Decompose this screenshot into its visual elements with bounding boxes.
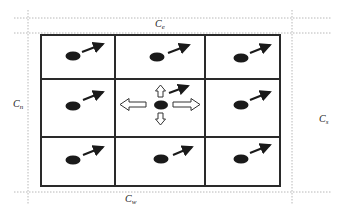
particle-dot: [154, 155, 169, 164]
cell-1-0: [66, 92, 104, 111]
cell-2-2: [234, 145, 271, 164]
cell-1-2: [234, 92, 271, 110]
arrow-up-icon: [156, 85, 166, 97]
label-top-ce: Ce: [155, 19, 165, 31]
particle-dot: [66, 52, 81, 61]
label-subscript: e: [162, 23, 165, 31]
particle-dot: [154, 101, 168, 110]
label-right-cs: Cs: [319, 114, 328, 126]
cell-1-1: [120, 85, 200, 125]
cell-0-0: [66, 44, 104, 61]
velocity-arrow-icon: [250, 145, 270, 153]
label-subscript: w: [132, 198, 137, 206]
label-base: C: [155, 18, 162, 29]
velocity-arrow-icon: [168, 45, 189, 53]
label-base: C: [125, 193, 132, 204]
velocity-arrow-icon: [173, 147, 192, 155]
cell-2-0: [66, 147, 104, 165]
label-subscript: n: [20, 103, 24, 111]
label-base: C: [13, 98, 20, 109]
particle-dot: [234, 54, 249, 63]
label-bottom-cw: Cw: [125, 194, 136, 206]
velocity-arrow-icon: [82, 44, 103, 52]
velocity-arrow-icon: [83, 147, 103, 155]
cell-0-1: [150, 45, 190, 62]
particles: [66, 44, 271, 165]
arrow-down-icon: [156, 113, 166, 125]
velocity-arrow-icon: [169, 86, 188, 93]
particle-dot: [234, 101, 249, 110]
particle-dot: [234, 155, 249, 164]
cell-2-1: [154, 147, 193, 164]
label-left-cn: Cn: [13, 99, 23, 111]
arrow-right-icon: [173, 99, 200, 111]
arrow-left-icon: [120, 99, 146, 111]
velocity-arrow-icon: [250, 92, 270, 100]
grid-diagram: [0, 0, 342, 215]
label-subscript: s: [326, 118, 329, 126]
particle-dot: [66, 102, 81, 111]
velocity-arrow-icon: [250, 45, 270, 53]
particle-dot: [66, 156, 81, 165]
label-base: C: [319, 113, 326, 124]
cell-0-2: [234, 45, 271, 63]
particle-dot: [150, 53, 165, 62]
velocity-arrow-icon: [83, 92, 103, 100]
